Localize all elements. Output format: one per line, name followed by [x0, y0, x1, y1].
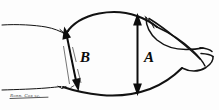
measurement-b-label: B — [79, 49, 90, 65]
beetle-measurement-diagram: A B Ronn. Cox sc. — [0, 0, 219, 110]
measurement-b-guide-left — [64, 46, 70, 84]
measurement-a-label: A — [143, 49, 154, 65]
anterior-upper-margin-line — [2, 25, 65, 34]
measurement-b-arrow: B — [62, 27, 90, 92]
specimen-outline-group — [2, 12, 213, 95]
signature-text: Ronn. Cox sc. — [9, 93, 40, 98]
apex-notch-upper — [200, 48, 212, 52]
elytron-outer-curve — [157, 27, 205, 66]
posterior-notch-tick — [71, 86, 74, 88]
body-top-contour — [66, 12, 157, 33]
apex-notch-lower — [201, 54, 213, 57]
figure-container: A B Ronn. Cox sc. — [0, 0, 219, 110]
anterior-lower-margin-line — [2, 87, 61, 91]
measurement-b-guide-upper — [73, 47, 77, 62]
apex-terminal-hook — [182, 57, 213, 72]
artist-signature: Ronn. Cox sc. — [9, 93, 48, 99]
measurement-a-arrow: A — [133, 13, 154, 96]
